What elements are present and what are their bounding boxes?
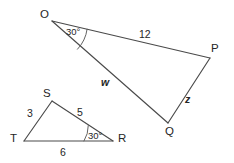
side-length-st: 3 [27, 108, 33, 119]
vertex-label-s: S [43, 88, 51, 100]
side-length-tr: 6 [60, 147, 66, 158]
segment-pq [168, 58, 210, 123]
geometry-figure: O P Q 12 w z 30° S T R 3 5 6 30° [0, 0, 234, 163]
vertex-label-t: T [10, 133, 17, 145]
vertex-label-q: Q [165, 126, 174, 138]
vertex-label-r: R [118, 133, 126, 145]
vertex-label-p: P [211, 43, 219, 55]
side-length-op: 12 [139, 29, 151, 40]
side-length-oq: w [101, 77, 109, 88]
side-length-sr: 5 [77, 107, 83, 118]
angle-label-r: 30° [88, 131, 102, 141]
side-length-pq: z [185, 94, 190, 105]
angle-label-o: 30° [66, 27, 80, 37]
vertex-label-o: O [40, 9, 49, 21]
figure-canvas [0, 0, 234, 163]
